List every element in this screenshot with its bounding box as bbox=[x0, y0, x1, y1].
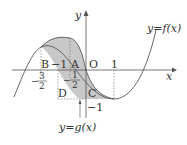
tick-neg-half-den: 2 bbox=[72, 80, 78, 90]
graph-figure: y x O 1 B −1 A − 3 2 − 1 2 D C −1 y=f(x)… bbox=[0, 0, 187, 145]
graph-svg: y x O 1 B −1 A − 3 2 − 1 2 D C −1 y=f(x)… bbox=[0, 0, 187, 145]
tick-neg-half-num: 1 bbox=[72, 70, 78, 80]
tick-neg-three-halves-num: 3 bbox=[39, 71, 45, 81]
x-axis-arrow-icon bbox=[172, 68, 177, 73]
g-pointer-arrow-icon bbox=[79, 100, 82, 104]
tick-x-neg-one: −1 bbox=[51, 58, 67, 71]
tick-x-one: 1 bbox=[111, 58, 118, 71]
y-axis-arrow-icon bbox=[84, 10, 89, 16]
tick-neg-three-halves-den: 2 bbox=[39, 81, 45, 91]
tick-neg-half-sign: − bbox=[63, 75, 71, 85]
point-label-c: C bbox=[88, 87, 96, 100]
y-axis-label: y bbox=[74, 9, 82, 22]
curve-g-label: y=g(x) bbox=[58, 121, 96, 134]
point-label-b: B bbox=[41, 58, 49, 71]
x-axis-label: x bbox=[166, 70, 173, 83]
tick-y-neg-one: −1 bbox=[87, 101, 103, 114]
point-label-d: D bbox=[58, 87, 67, 100]
curve-f-label: y=f(x) bbox=[146, 22, 181, 35]
origin-label: O bbox=[89, 58, 98, 71]
